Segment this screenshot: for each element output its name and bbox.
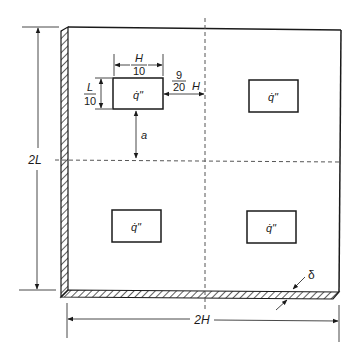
plate	[61, 27, 341, 299]
symmetry-lines	[55, 18, 341, 312]
svg-text:9: 9	[176, 69, 182, 81]
svg-text:H: H	[135, 52, 143, 64]
svg-text:a: a	[141, 129, 147, 141]
plate-diagram: q̇" q̇" q̇" q̇" H 10 L 10 9 20 H a 2L	[0, 0, 356, 354]
left-insulated-wall	[61, 27, 68, 297]
source-label-bottom-right: q̇"	[266, 222, 277, 234]
dim-source-height	[95, 78, 112, 109]
svg-text:H: H	[192, 80, 200, 92]
svg-text:10: 10	[84, 95, 96, 107]
svg-text:L: L	[87, 81, 93, 93]
svg-text:2L: 2L	[27, 153, 41, 167]
source-label-top-left: q̇"	[133, 89, 144, 101]
svg-text:10: 10	[133, 65, 145, 77]
bottom-insulated-wall	[61, 290, 339, 299]
source-label-top-right: q̇"	[268, 91, 279, 103]
svg-text:2H: 2H	[193, 313, 210, 327]
source-label-bottom-left: q̇"	[131, 221, 142, 233]
svg-text:δ: δ	[308, 268, 315, 282]
svg-text:20: 20	[173, 81, 185, 93]
